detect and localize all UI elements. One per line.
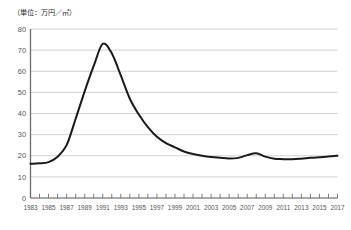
x-axis-tick-label: 2017	[330, 204, 345, 211]
x-axis-tick-label: 2001	[186, 204, 201, 211]
x-axis-tick-label: 1989	[78, 204, 93, 211]
x-axis-tick-label: 1995	[132, 204, 147, 211]
x-axis-tick-label: 2009	[258, 204, 273, 211]
x-axis-tick-label: 1999	[168, 204, 183, 211]
x-axis-tick-label: 1987	[60, 204, 75, 211]
x-axis-tick-label: 2005	[222, 204, 237, 211]
price-series-line	[31, 43, 338, 163]
y-axis-tick-label: 40	[18, 109, 26, 118]
x-axis-tick-label: 2003	[204, 204, 219, 211]
x-axis-tick-label: 2013	[294, 204, 309, 211]
y-axis-tick-labels-group: 01020304050607080	[18, 25, 26, 203]
x-axis-tick-label: 2011	[276, 204, 290, 211]
y-axis-tick-label: 60	[18, 67, 26, 76]
x-axis-ticks-group	[31, 194, 338, 198]
x-axis-tick-label: 1997	[150, 204, 165, 211]
x-axis-tick-label: 2015	[312, 204, 327, 211]
y-axis-tick-label: 0	[22, 194, 26, 203]
x-axis-tick-label: 1991	[96, 204, 111, 211]
chart-plot-area: 01020304050607080 1983198519871989199119…	[0, 0, 351, 230]
x-axis-tick-label: 1993	[114, 204, 129, 211]
y-axis-tick-label: 80	[18, 25, 26, 34]
y-axis-tick-label: 10	[18, 173, 26, 182]
y-axis-tick-label: 50	[18, 88, 26, 97]
x-axis-tick-label: 2007	[240, 204, 255, 211]
x-axis-tick-label: 1983	[23, 204, 38, 211]
y-axis-tick-label: 20	[18, 151, 26, 160]
x-axis-tick-label: 1985	[41, 204, 56, 211]
land-price-chart: （単位：万円／㎡） 01020304050607080 198319851987…	[0, 0, 351, 230]
x-axis-tick-labels-group: 1983198519871989199119931995199719992001…	[23, 204, 345, 211]
y-axis-tick-label: 30	[18, 130, 26, 139]
y-axis-tick-label: 70	[18, 46, 26, 55]
